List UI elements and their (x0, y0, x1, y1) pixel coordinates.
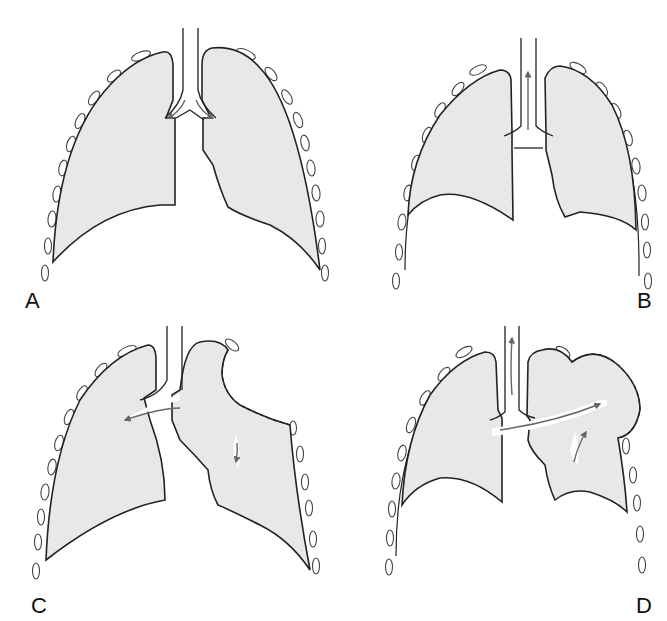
right-lung-d (402, 352, 502, 505)
panel-b (393, 38, 652, 289)
left-lung-c (172, 341, 310, 570)
panel-d (386, 326, 646, 575)
airflow-arrow-d-up (511, 338, 512, 395)
left-lung-d (527, 349, 640, 512)
panel-label-b: B (637, 288, 652, 314)
panel-label-c: C (31, 593, 47, 619)
lung-diagram-figure (0, 0, 667, 621)
panel-label-d: D (636, 593, 652, 619)
panel-c (33, 326, 320, 579)
left-lung-a (202, 48, 320, 270)
right-lung-c (46, 345, 165, 560)
left-lung-b (545, 66, 636, 230)
right-lung-b (408, 70, 513, 220)
panel-a (42, 28, 329, 281)
right-lung-a (53, 52, 175, 262)
panel-label-a: A (25, 288, 40, 314)
